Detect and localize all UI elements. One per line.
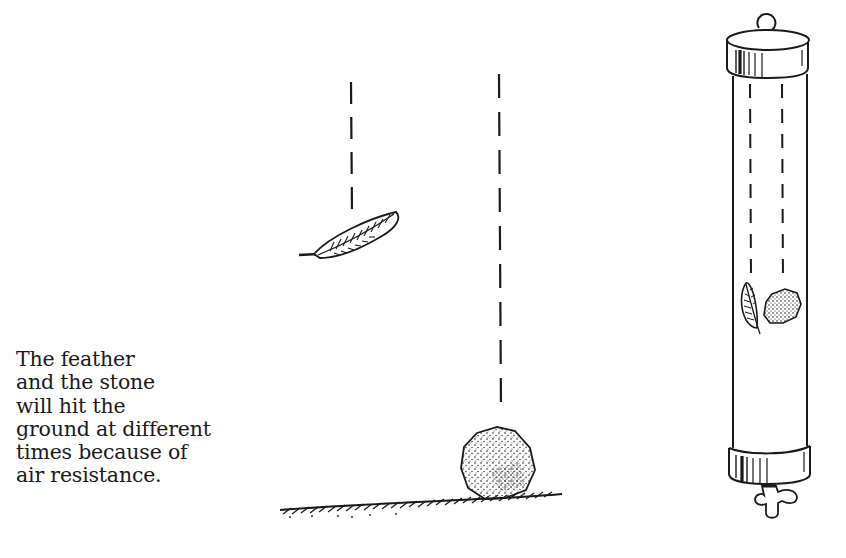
stone-trail-dashes bbox=[499, 74, 501, 412]
open-air-scene bbox=[280, 74, 562, 518]
feather-icon bbox=[299, 212, 398, 258]
tube-stone-icon bbox=[764, 289, 801, 323]
ground bbox=[280, 492, 562, 518]
stone-icon bbox=[461, 427, 535, 499]
illustration bbox=[0, 0, 846, 558]
tube-feather-icon bbox=[742, 283, 761, 334]
stopcock-valve-icon bbox=[755, 486, 797, 518]
tube-feather-trail-dashes bbox=[750, 84, 751, 276]
tube-top-ring bbox=[757, 14, 775, 30]
tube-bottom-cap bbox=[729, 446, 810, 484]
tube-stone-trail-dashes bbox=[782, 84, 783, 282]
tube-top-cap bbox=[727, 30, 809, 78]
feather-trail-dashes bbox=[351, 82, 352, 214]
vacuum-tube bbox=[727, 14, 810, 518]
